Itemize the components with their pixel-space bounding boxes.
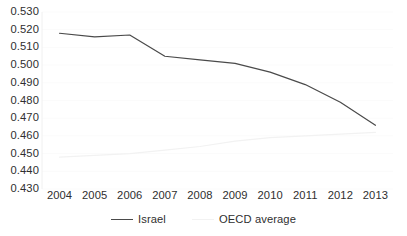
- chart-legend: IsraelOECD average: [0, 209, 407, 229]
- x-axis-tick-label: 2007: [152, 190, 177, 201]
- legend-label: Israel: [138, 213, 166, 225]
- legend-label: OECD average: [219, 213, 296, 225]
- x-axis-tick-label: 2006: [117, 190, 142, 201]
- x-axis-tick-label: 2010: [257, 190, 282, 201]
- legend-item[interactable]: Israel: [111, 213, 166, 225]
- x-axis-tick-label: 2008: [187, 190, 212, 201]
- line-chart: 0.5300.5200.5100.5000.4900.4800.4700.460…: [0, 0, 407, 236]
- legend-line-swatch-icon: [111, 219, 133, 220]
- x-axis-tick-label: 2005: [82, 190, 107, 201]
- legend-item[interactable]: OECD average: [192, 213, 296, 225]
- x-axis-tick-label: 2009: [222, 190, 247, 201]
- x-axis-tick-label: 2013: [363, 190, 388, 201]
- legend-line-swatch-icon: [192, 219, 214, 220]
- x-axis-tick-label: 2011: [293, 190, 317, 201]
- x-axis-tick-labels: 2004200520062007200820092010201120122013: [42, 190, 404, 210]
- x-axis-tick-label: 2004: [47, 190, 72, 201]
- x-axis-tick-label: 2012: [328, 190, 353, 201]
